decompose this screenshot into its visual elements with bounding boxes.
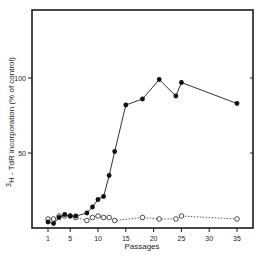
- x-tick-label: 30: [205, 235, 213, 242]
- data-point-filled: [179, 80, 184, 85]
- data-point-filled: [90, 205, 95, 210]
- x-tick-label: 15: [122, 235, 130, 242]
- data-point-open: [179, 214, 184, 219]
- plot-border: [32, 10, 253, 228]
- data-point-filled: [73, 214, 78, 219]
- data-point-filled: [112, 149, 117, 154]
- series-filled: [46, 77, 240, 226]
- y-tick-label: 100: [14, 75, 26, 82]
- data-point-filled: [157, 77, 162, 82]
- data-point-filled: [140, 97, 145, 102]
- data-point-filled: [96, 197, 101, 202]
- x-axis-title: Passages: [124, 242, 159, 251]
- data-point-open: [51, 217, 56, 222]
- data-point-filled: [46, 220, 51, 225]
- data-point-open: [157, 217, 162, 222]
- data-point-filled: [235, 101, 240, 106]
- data-point-open: [174, 217, 179, 222]
- x-tick-label: 25: [178, 235, 186, 242]
- data-point-open: [107, 215, 112, 220]
- data-point-filled: [62, 212, 67, 217]
- data-point-open: [96, 214, 101, 219]
- data-point-open: [140, 215, 145, 220]
- data-point-open: [90, 215, 95, 220]
- plot-frame: [32, 10, 253, 228]
- data-point-filled: [101, 194, 106, 199]
- data-point-filled: [68, 214, 73, 219]
- y-axis-title-main: H - TdR incorporation (% of control): [7, 57, 16, 183]
- data-point-filled: [57, 215, 62, 220]
- data-point-filled: [51, 221, 56, 226]
- data-point-open: [85, 218, 90, 223]
- x-tick-label: 5: [68, 235, 72, 242]
- y-axis-title: 3H - TdR incorporation (% of control): [5, 57, 16, 187]
- x-axis-ticks: 15101520253035: [46, 228, 241, 242]
- data-point-open: [112, 218, 117, 223]
- chart: 15101520253035 50100 Passages 3H - TdR i…: [0, 0, 259, 257]
- data-point-filled: [107, 173, 112, 178]
- x-tick-label: 35: [233, 235, 241, 242]
- data-point-filled: [123, 103, 128, 108]
- y-axis-ticks: 50100: [14, 75, 253, 157]
- x-tick-label: 1: [46, 235, 50, 242]
- x-tick-label: 20: [150, 235, 158, 242]
- y-tick-label: 50: [18, 150, 26, 157]
- data-series: [46, 77, 240, 226]
- data-point-filled: [85, 211, 90, 216]
- data-point-open: [101, 215, 106, 220]
- data-point-open: [235, 217, 240, 222]
- x-tick-label: 10: [94, 235, 102, 242]
- data-point-filled: [173, 94, 178, 99]
